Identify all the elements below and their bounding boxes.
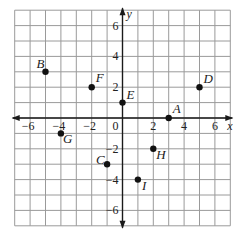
y-axis-down-arrow-icon xyxy=(120,221,126,229)
coordinate-plane: −6−4−20246642−2−4−6xy ABCDEFGHI xyxy=(0,0,247,247)
point-marker-icon xyxy=(104,161,110,167)
x-axis-label: x xyxy=(226,119,233,133)
point-marker-icon xyxy=(119,99,125,105)
origin-label: 0 xyxy=(113,119,119,133)
y-axis-up-arrow-icon xyxy=(120,7,126,15)
point-label: G xyxy=(63,131,73,146)
point-label: C xyxy=(96,152,105,167)
point-i: I xyxy=(135,176,147,192)
point-marker-icon xyxy=(89,84,95,90)
y-tick-label: −6 xyxy=(106,203,119,217)
x-axis-left-arrow-icon xyxy=(12,115,20,121)
point-label: H xyxy=(155,147,166,162)
axes xyxy=(12,7,234,229)
y-tick-label: −4 xyxy=(106,173,119,187)
tick-labels: −6−4−20246642−2−4−6xy xyxy=(22,7,234,217)
y-axis-label: y xyxy=(126,7,133,21)
point-g: G xyxy=(58,130,73,146)
point-label: D xyxy=(203,71,214,86)
point-marker-icon xyxy=(196,84,202,90)
point-label: B xyxy=(37,56,45,71)
x-tick-label: 4 xyxy=(181,119,187,133)
point-marker-icon xyxy=(166,115,172,121)
point-label: F xyxy=(95,70,105,85)
point-label: I xyxy=(141,178,147,193)
y-tick-label: 2 xyxy=(113,80,119,94)
x-tick-label: 2 xyxy=(150,119,156,133)
y-tick-label: 4 xyxy=(113,49,119,63)
y-tick-label: 6 xyxy=(113,19,119,33)
point-label: E xyxy=(126,87,135,102)
x-tick-label: −6 xyxy=(22,119,35,133)
x-tick-label: 6 xyxy=(212,119,218,133)
point-marker-icon xyxy=(135,176,141,182)
point-h: H xyxy=(150,146,166,162)
x-tick-label: −2 xyxy=(83,119,96,133)
y-tick-label: −2 xyxy=(106,142,119,156)
point-label: A xyxy=(172,101,181,116)
